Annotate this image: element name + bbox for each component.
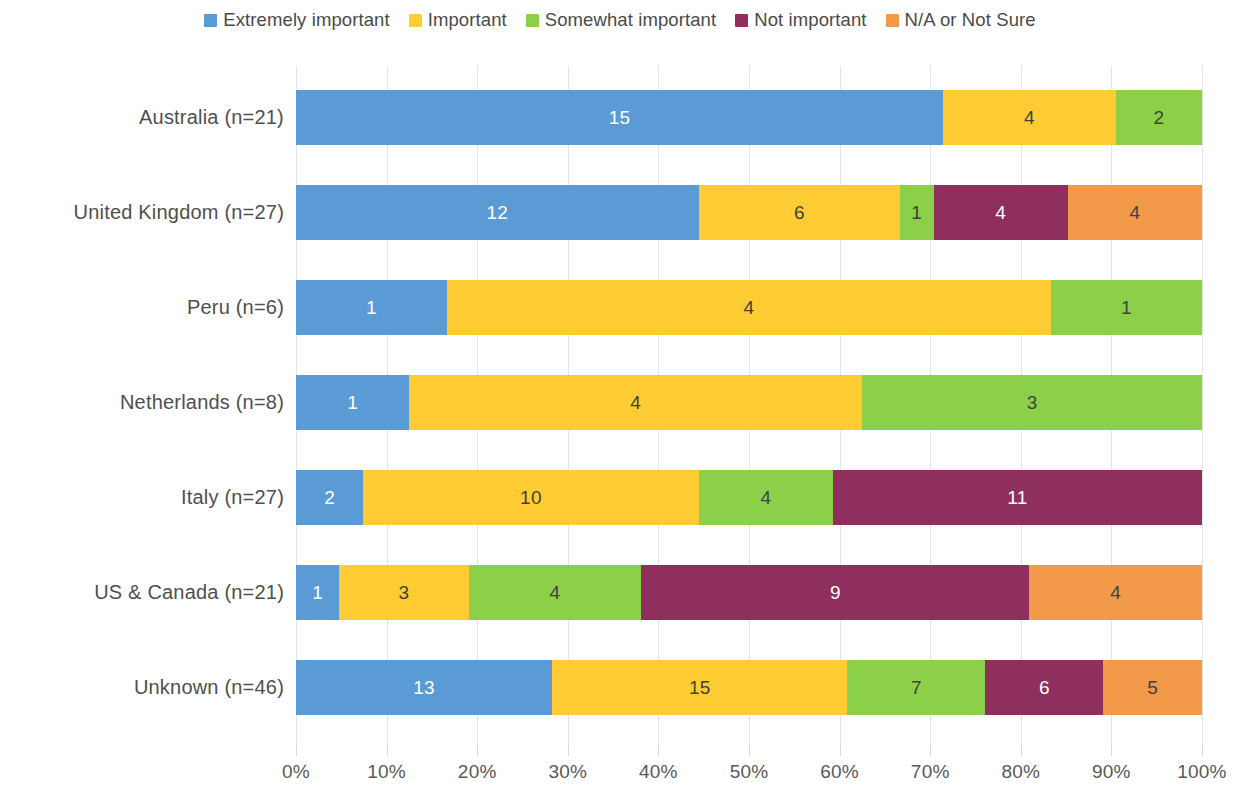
bar-segment[interactable]: 4 [699, 470, 833, 525]
bar-segment[interactable]: 4 [934, 185, 1068, 240]
bar-segment[interactable]: 3 [862, 375, 1202, 430]
value-axis-tick-label: 80% [1001, 761, 1040, 783]
value-axis-tick [1111, 745, 1112, 756]
legend-item[interactable]: Important [409, 11, 507, 30]
legend-item-label: Not important [754, 11, 866, 30]
value-axis-tick-label: 100% [1177, 761, 1226, 783]
bar-segment[interactable]: 3 [339, 565, 468, 620]
legend-swatch-icon [735, 14, 748, 27]
value-axis-tick-label: 0% [282, 761, 310, 783]
value-axis-tick [1202, 745, 1203, 756]
value-axis-tick-label: 40% [639, 761, 678, 783]
bar-segment[interactable]: 2 [1116, 90, 1202, 145]
bar-segment-value-label: 11 [1007, 488, 1027, 507]
bar-segment-value-label: 6 [1039, 678, 1050, 697]
bar-segment-value-label: 4 [1129, 203, 1140, 222]
legend-item-label: Extremely important [223, 11, 389, 30]
value-axis-tick [477, 745, 478, 756]
value-axis-tick-label: 60% [820, 761, 859, 783]
legend-swatch-icon [409, 14, 422, 27]
legend-item-label: Important [428, 11, 507, 30]
legend-item[interactable]: Not important [735, 11, 866, 30]
value-axis-tick-label: 10% [367, 761, 406, 783]
bar-segment-value-label: 10 [520, 488, 542, 507]
value-axis-tick [296, 745, 297, 756]
bar-segment[interactable]: 4 [447, 280, 1051, 335]
category-axis: Australia (n=21)United Kingdom (n=27)Per… [0, 66, 284, 745]
category-axis-label: US & Canada (n=21) [0, 565, 284, 620]
bar-segment-value-label: 1 [347, 393, 358, 412]
bar-segment-value-label: 1 [312, 583, 323, 602]
bar-segment[interactable]: 4 [1068, 185, 1202, 240]
bar-segment-value-label: 4 [549, 583, 560, 602]
stacked-bar-chart: Extremely importantImportantSomewhat imp… [0, 0, 1240, 795]
gridline [1202, 66, 1203, 745]
value-axis-tick-label: 30% [548, 761, 587, 783]
bar-segment[interactable]: 4 [409, 375, 862, 430]
bar-segment-value-label: 5 [1147, 678, 1158, 697]
bar-segment-value-label: 12 [487, 203, 509, 222]
bar-segment-value-label: 15 [689, 678, 711, 697]
bar-segment[interactable]: 6 [699, 185, 900, 240]
bar-segment[interactable]: 1 [1051, 280, 1202, 335]
bar-segment[interactable]: 4 [943, 90, 1116, 145]
bar-row: 13494 [296, 565, 1202, 620]
value-axis-tick [568, 745, 569, 756]
legend-item-label: N/A or Not Sure [905, 11, 1036, 30]
legend-swatch-icon [886, 14, 899, 27]
bar-segment[interactable]: 4 [1029, 565, 1202, 620]
bar-segment[interactable]: 4 [469, 565, 642, 620]
bar-segment[interactable]: 15 [552, 660, 847, 715]
bar-segment-value-label: 1 [1121, 298, 1132, 317]
value-axis: 0%10%20%30%40%50%60%70%80%90%100% [296, 745, 1202, 795]
bar-row: 143 [296, 375, 1202, 430]
plot-area: 1542126144141143210411134941315765 [296, 66, 1202, 745]
chart-legend: Extremely importantImportantSomewhat imp… [0, 6, 1240, 34]
legend-item[interactable]: Somewhat important [526, 11, 716, 30]
value-axis-tick-label: 50% [730, 761, 769, 783]
bar-segment[interactable]: 11 [833, 470, 1202, 525]
bar-row: 141 [296, 280, 1202, 335]
bar-segment-value-label: 4 [1024, 108, 1035, 127]
value-axis-tick-label: 70% [911, 761, 950, 783]
category-axis-label: United Kingdom (n=27) [0, 185, 284, 240]
legend-item-label: Somewhat important [545, 11, 716, 30]
value-axis-tick [658, 745, 659, 756]
bar-segment[interactable]: 7 [847, 660, 985, 715]
category-axis-label: Netherlands (n=8) [0, 375, 284, 430]
bar-row: 126144 [296, 185, 1202, 240]
value-axis-tick [387, 745, 388, 756]
bar-segment-value-label: 13 [413, 678, 435, 697]
bar-segment[interactable]: 13 [296, 660, 552, 715]
bar-segment-value-label: 15 [609, 108, 631, 127]
bar-segment[interactable]: 2 [296, 470, 363, 525]
bar-segment[interactable]: 15 [296, 90, 943, 145]
bar-segment[interactable]: 5 [1103, 660, 1201, 715]
category-axis-label: Peru (n=6) [0, 280, 284, 335]
bar-segment[interactable]: 9 [641, 565, 1029, 620]
bar-segment-value-label: 2 [324, 488, 335, 507]
legend-item[interactable]: N/A or Not Sure [886, 11, 1036, 30]
bar-segment-value-label: 4 [1110, 583, 1121, 602]
bar-segment-value-label: 1 [911, 203, 922, 222]
bar-segment[interactable]: 6 [985, 660, 1103, 715]
legend-item[interactable]: Extremely important [204, 11, 389, 30]
bar-segment[interactable]: 10 [363, 470, 699, 525]
bar-segment[interactable]: 1 [296, 375, 409, 430]
value-axis-tick [930, 745, 931, 756]
bar-row: 210411 [296, 470, 1202, 525]
bar-segment-value-label: 4 [630, 393, 641, 412]
bar-row: 1542 [296, 90, 1202, 145]
value-axis-tick-label: 20% [458, 761, 497, 783]
category-axis-label: Italy (n=27) [0, 470, 284, 525]
bar-segment[interactable]: 1 [296, 280, 447, 335]
bar-segment-value-label: 4 [995, 203, 1006, 222]
bar-segment[interactable]: 1 [900, 185, 934, 240]
bar-segment-value-label: 2 [1153, 108, 1164, 127]
bar-segment-value-label: 3 [1027, 393, 1038, 412]
bar-segment[interactable]: 12 [296, 185, 699, 240]
category-axis-label: Unknown (n=46) [0, 660, 284, 715]
legend-swatch-icon [204, 14, 217, 27]
bar-segment[interactable]: 1 [296, 565, 339, 620]
bar-segment-value-label: 7 [911, 678, 922, 697]
